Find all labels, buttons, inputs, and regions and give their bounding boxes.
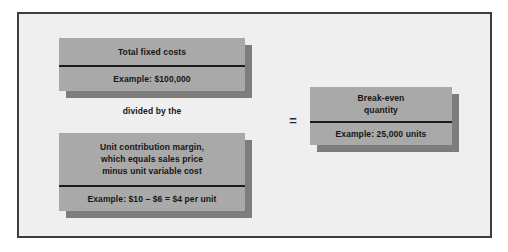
box-example-area: Example: $10 – $6 = $4 per unit bbox=[59, 187, 245, 211]
unit-contribution-margin-heading: Unit contribution margin, which equals s… bbox=[100, 141, 204, 177]
breakeven-quantity-example: Example: 25,000 units bbox=[336, 128, 427, 140]
diagram-frame: Total fixed costs Example: $100,000 divi… bbox=[17, 12, 492, 238]
box-example-area: Example: $100,000 bbox=[59, 67, 245, 91]
box-heading-area: Break-even quantity bbox=[310, 87, 452, 121]
equals-sign-icon: = bbox=[281, 109, 305, 131]
box-body: Total fixed costs Example: $100,000 bbox=[59, 38, 245, 91]
breakeven-quantity-box: Break-even quantity Example: 25,000 unit… bbox=[310, 87, 452, 145]
total-fixed-costs-box: Total fixed costs Example: $100,000 bbox=[59, 38, 245, 91]
unit-contribution-margin-example: Example: $10 – $6 = $4 per unit bbox=[87, 193, 216, 205]
box-example-area: Example: 25,000 units bbox=[310, 123, 452, 145]
box-heading-area: Unit contribution margin, which equals s… bbox=[59, 133, 245, 185]
equals-glyph: = bbox=[289, 114, 297, 127]
unit-contribution-margin-box: Unit contribution margin, which equals s… bbox=[59, 133, 245, 211]
breakeven-formula-diagram: Total fixed costs Example: $100,000 divi… bbox=[0, 0, 508, 252]
divided-by-connector: divided by the bbox=[59, 102, 245, 120]
box-heading-area: Total fixed costs bbox=[59, 38, 245, 65]
box-body: Break-even quantity Example: 25,000 unit… bbox=[310, 87, 452, 145]
divided-by-label: divided by the bbox=[123, 105, 182, 117]
breakeven-quantity-heading: Break-even quantity bbox=[358, 92, 405, 116]
box-body: Unit contribution margin, which equals s… bbox=[59, 133, 245, 211]
total-fixed-costs-example: Example: $100,000 bbox=[113, 73, 190, 85]
total-fixed-costs-heading: Total fixed costs bbox=[118, 46, 186, 58]
